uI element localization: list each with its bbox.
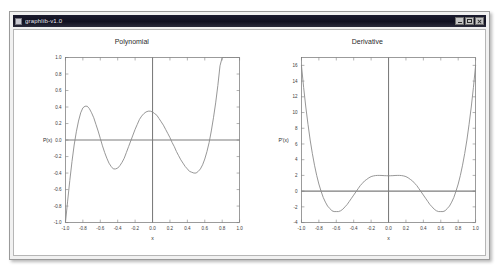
window-controls (455, 17, 484, 25)
x-tick-label: 1.0 (236, 226, 243, 231)
y-tick-label: 4 (294, 157, 297, 162)
x-tick-label: -0.6 (332, 226, 340, 231)
y-tick-label: 14 (292, 79, 298, 84)
y-tick-label: 0 (294, 189, 297, 194)
y-tick-label: 8 (294, 126, 297, 131)
x-tick-label: -0.8 (314, 226, 322, 231)
y-axis-label: P'(x) (278, 137, 289, 143)
y-tick-label: 1.0 (55, 55, 62, 60)
plot-panel-derivative: Derivative 1614121086420-2-4-1.0-0.8-0.6… (250, 30, 486, 255)
y-tick-label: 6 (294, 142, 297, 147)
y-axis-label: P(x) (43, 137, 53, 143)
application-window: graphlib-v1.0 Polynomial 1.00.80.60.40.2… (9, 11, 490, 260)
close-button[interactable] (475, 17, 484, 25)
client-area: Polynomial 1.00.80.60.40.20.0-0.2-0.4-0.… (13, 29, 486, 256)
x-tick-label: 0.8 (219, 226, 226, 231)
y-tick-label: -0.6 (54, 187, 62, 192)
x-tick-label: 1.0 (472, 226, 479, 231)
x-tick-label: -1.0 (62, 226, 70, 231)
x-tick-label: -0.4 (114, 226, 122, 231)
minimize-button[interactable] (455, 17, 464, 25)
x-tick-label: 0.4 (420, 226, 427, 231)
maximize-button[interactable] (465, 17, 474, 25)
y-tick-label: 0.4 (55, 105, 62, 110)
y-tick-label: 0.0 (55, 138, 62, 143)
y-tick-label: -1.0 (54, 220, 62, 225)
x-tick-label: -1.0 (297, 226, 305, 231)
y-tick-label: -0.4 (54, 171, 62, 176)
y-tick-label: 0.6 (55, 88, 62, 93)
y-tick-label: -4 (293, 220, 298, 225)
y-tick-label: 0.8 (55, 72, 62, 77)
x-tick-label: 0.6 (202, 226, 209, 231)
title-bar[interactable]: graphlib-v1.0 (13, 15, 486, 27)
plot-container: Polynomial 1.00.80.60.40.20.0-0.2-0.4-0.… (14, 30, 485, 255)
y-tick-label: -0.2 (54, 154, 62, 159)
plot-panel-polynomial: Polynomial 1.00.80.60.40.20.0-0.2-0.4-0.… (14, 30, 250, 255)
x-tick-label: -0.2 (131, 226, 139, 231)
x-tick-label: 0.0 (385, 226, 392, 231)
x-tick-label: 0.2 (402, 226, 409, 231)
x-tick-label: -0.2 (367, 226, 375, 231)
x-tick-label: 0.6 (437, 226, 444, 231)
y-tick-label: 2 (294, 173, 297, 178)
y-tick-label: 0.2 (55, 121, 62, 126)
x-axis-label: x (387, 235, 390, 241)
y-tick-label: 16 (292, 63, 298, 68)
y-tick-label: 10 (292, 110, 298, 115)
y-tick-label: -0.8 (54, 204, 62, 209)
x-tick-label: 0.2 (167, 226, 174, 231)
chart-derivative: 1614121086420-2-4-1.0-0.8-0.6-0.4-0.20.0… (250, 30, 486, 255)
x-tick-label: -0.8 (79, 226, 87, 231)
x-tick-label: 0.0 (149, 226, 156, 231)
x-tick-label: 0.4 (184, 226, 191, 231)
x-tick-label: -0.4 (349, 226, 357, 231)
chart-polynomial: 1.00.80.60.40.20.0-0.2-0.4-0.6-0.8-1.0-1… (14, 30, 250, 255)
x-tick-label: 0.8 (455, 226, 462, 231)
y-tick-label: -2 (293, 205, 298, 210)
x-tick-label: -0.6 (96, 226, 104, 231)
window-title: graphlib-v1.0 (25, 18, 455, 24)
x-axis-label: x (151, 235, 154, 241)
window-icon (15, 18, 22, 25)
y-tick-label: 12 (292, 94, 298, 99)
